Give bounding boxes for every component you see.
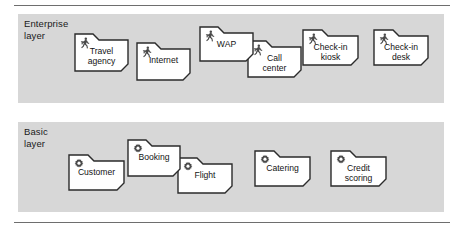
- service-node-check-in-kiosk[interactable]: Check-in kiosk: [302, 29, 359, 66]
- gear-icon: [132, 143, 144, 155]
- service-node-travel-agency[interactable]: Travel agency: [74, 33, 129, 72]
- gear-icon: [182, 161, 194, 173]
- gear-icon: [259, 154, 271, 166]
- service-node-flight[interactable]: Flight: [177, 157, 233, 194]
- service-node-credit-scoring[interactable]: Credit scoring: [330, 150, 387, 187]
- running-person-icon: [307, 33, 319, 45]
- service-node-internet[interactable]: Internet: [136, 42, 191, 81]
- bottom-divider-rule: [14, 222, 450, 223]
- basic-layer-label: Basic layer: [24, 126, 48, 149]
- service-node-customer[interactable]: Customer: [68, 154, 125, 191]
- service-node-wap[interactable]: WAP: [199, 26, 254, 62]
- running-person-icon: [79, 37, 91, 49]
- gear-icon: [335, 154, 347, 166]
- service-node-booking[interactable]: Booking: [127, 139, 181, 177]
- running-person-icon: [378, 33, 390, 45]
- service-node-call-center[interactable]: Call center: [247, 40, 302, 78]
- service-node-check-in-desk[interactable]: Check-in desk: [373, 29, 429, 66]
- diagram-canvas: Enterprise layer Basic layer Travel agen…: [0, 0, 462, 234]
- running-person-icon: [141, 46, 153, 58]
- service-node-catering[interactable]: Catering: [254, 150, 311, 187]
- top-divider-rule: [14, 5, 450, 6]
- running-person-icon: [204, 30, 216, 42]
- enterprise-layer-label: Enterprise layer: [24, 18, 68, 41]
- gear-icon: [73, 158, 85, 170]
